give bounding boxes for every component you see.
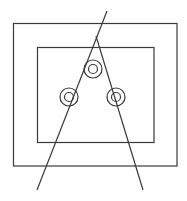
inner-rectangle [38, 48, 155, 143]
rays [37, 11, 143, 190]
inner-ring [89, 65, 98, 74]
diagram-canvas [0, 0, 187, 201]
right-ray [96, 36, 143, 190]
